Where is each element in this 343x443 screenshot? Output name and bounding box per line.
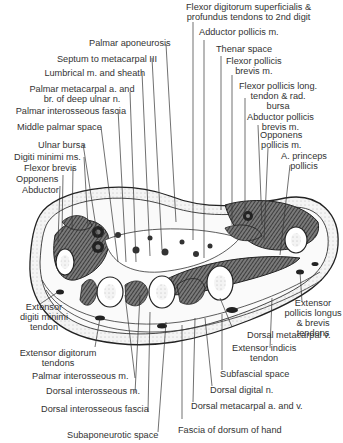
label-opponens: Opponens [16,174,58,184]
label-adductor-pollicis: Adductor pollicis m. [199,27,279,37]
label-opponens-pollicis: Opponens pollicis m. [260,130,302,150]
label-ulnar-bursa: Ulnar bursa [38,140,86,150]
label-middle-palmar-space: Middle palmar space [17,122,102,132]
label-flexor-brevis: Flexor brevis [24,163,77,173]
label-thenar-space: Thenar space [216,44,272,54]
label-fds-fdp: Flexor digitorum superficialis & profund… [186,2,311,22]
label-dorsal-digital: Dorsal digital n. [210,385,273,395]
label-dorsal-metacarpal-av: Dorsal metacarpal a. and v. [191,401,303,411]
label-dorsal-metacarpal-v: Dorsal metacarpal v. [247,330,331,340]
label-palmar-interosseous-fascia: Palmar interosseous fascia [10,106,126,116]
label-palmar-aponeurosis: Palmar aponeurosis [89,38,169,48]
label-abductor-pollicis-brevis: Abductor pollicis brevis m. [247,112,314,132]
label-a-princeps: A. princeps pollicis [281,151,327,171]
label-edm: Extensor digiti minimi tendon [14,302,74,332]
label-subaponeurotic: Subaponeurotic space [67,430,158,440]
label-palmar-interosseous-m: Palmar interosseous m. [32,371,129,381]
label-fascia-dorsum: Fascia of dorsum of hand [178,425,282,435]
label-digiti-minimi: Digiti minimi ms. [14,152,81,162]
label-abductor: Abductor [22,185,59,195]
label-ed: Extensor digitorum tendons [14,348,102,368]
label-lumbrical: Lumbrical m. and sheath [20,68,145,78]
label-septum: Septum to metacarpal III [40,54,157,64]
label-dorsal-interosseous-fascia: Dorsal interosseous fascia [41,404,149,414]
label-flexor-pollicis-brevis: Flexor pollicis brevis m. [226,56,282,76]
label-dorsal-interosseous-m: Dorsal interosseous m. [46,386,140,396]
label-subfascial: Subfascial space [220,369,289,379]
label-ei: Extensor indicis tendon [232,343,296,363]
label-palmar-metacarpal: Palmar metacarpal a. and br. of deep uln… [26,84,138,104]
label-fpl: Flexor pollicis long. tendon & rad. burs… [239,81,317,111]
